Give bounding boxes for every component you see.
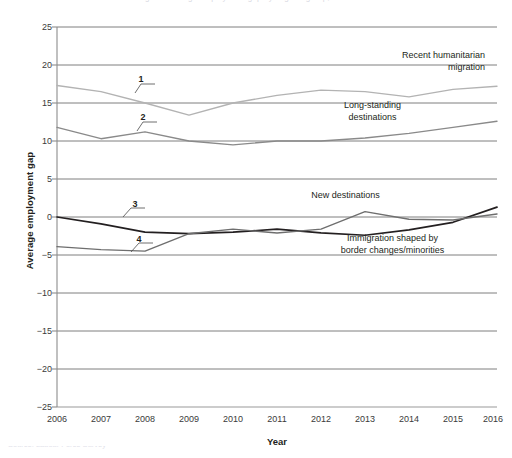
callout-number-1: 1 (138, 74, 143, 84)
figure-footnote-strip: Source: Labour Force Survey (0, 446, 512, 458)
series-label-line-1: Long-standing (300, 100, 445, 112)
series-label-line-1: Immigration shaped by (300, 233, 485, 245)
series-label-recent-humanitarian-migration: Recent humanitarian migration (280, 50, 485, 73)
series-label-line-2: destinations (300, 112, 445, 124)
figure-footnote: Source: Labour Force Survey (8, 446, 106, 449)
leader-line-2 (137, 122, 157, 131)
series-label-line-1: Recent humanitarian (280, 50, 485, 62)
series-label-line-2: border changes/minorities (300, 245, 485, 257)
callout-leader-lines (123, 84, 157, 252)
series-label-immigration-border-changes: Immigration shaped by border changes/min… (300, 233, 485, 256)
series-label-long-standing-destinations: Long-standing destinations (300, 100, 445, 123)
callout-number-2: 2 (140, 112, 145, 122)
series-label-new-destinations: New destinations (288, 190, 403, 202)
callout-number-3: 3 (132, 199, 137, 209)
leader-line-3 (123, 208, 145, 217)
callout-number-4: 4 (136, 234, 141, 244)
series-label-line-1: New destinations (288, 190, 403, 202)
series-line-3 (57, 207, 497, 235)
leader-line-1 (135, 84, 155, 93)
chart-figure: Figure: Average employment gap by migran… (0, 0, 512, 458)
series-label-line-2: migration (280, 62, 485, 74)
